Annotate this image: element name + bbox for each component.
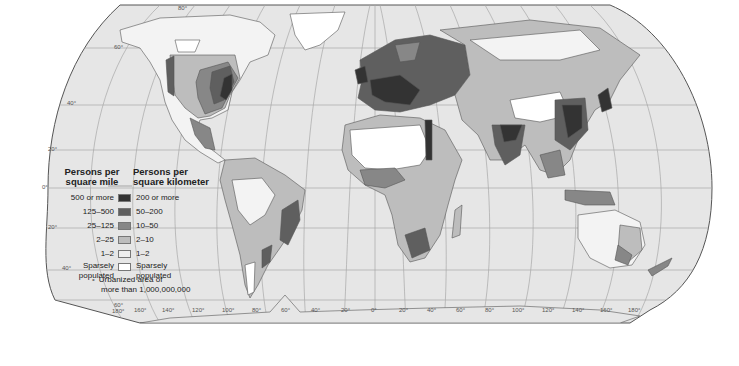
lon-label-80w: 80° xyxy=(252,307,261,313)
lon-label-60w: 60° xyxy=(281,307,290,313)
lat-label-20s: 20° xyxy=(48,224,57,230)
legend-swatch xyxy=(118,236,131,244)
lon-label-40w: 40° xyxy=(311,307,320,313)
lon-label-60e: 60° xyxy=(456,307,465,313)
lon-label-0: 0° xyxy=(371,307,377,313)
lon-label-100w: 100° xyxy=(222,307,234,313)
lon-label-140e: 140° xyxy=(572,307,584,313)
lon-label-40e: 40° xyxy=(427,307,436,313)
lat-label-40n: 40° xyxy=(67,100,76,106)
lon-label-160e: 160° xyxy=(600,307,612,313)
population-legend: Persons per square mile Persons per squa… xyxy=(60,167,260,297)
legend-header-km: Persons per square kilometer xyxy=(133,167,253,187)
lon-label-180e: 180° xyxy=(628,307,640,313)
lat-label-80n: 80° xyxy=(178,5,187,11)
lon-label-120e: 120° xyxy=(542,307,554,313)
urban-dot-icon: • xyxy=(92,275,95,284)
legend-swatch xyxy=(118,208,131,216)
lon-label-160w: 160° xyxy=(134,307,146,313)
legend-header-mile: Persons per square mile xyxy=(61,167,123,187)
lon-label-140w: 140° xyxy=(162,307,174,313)
lat-label-60n: 60° xyxy=(114,44,123,50)
lat-label-20n: 20° xyxy=(48,146,57,152)
legend-swatch xyxy=(118,250,131,258)
lon-label-120w: 120° xyxy=(192,307,204,313)
lon-label-100e: 100° xyxy=(512,307,524,313)
legend-urban-note: •Urbanized area of more than 1,000,000,0… xyxy=(92,275,190,295)
lon-label-180w: 180° xyxy=(112,308,124,314)
lon-label-80e: 80° xyxy=(485,307,494,313)
legend-swatch xyxy=(118,263,131,271)
lon-label-20e: 20° xyxy=(399,307,408,313)
legend-swatch xyxy=(118,222,131,230)
legend-swatch xyxy=(118,194,131,202)
lon-label-20w: 20° xyxy=(341,307,350,313)
lat-label-0: 0° xyxy=(42,184,48,190)
